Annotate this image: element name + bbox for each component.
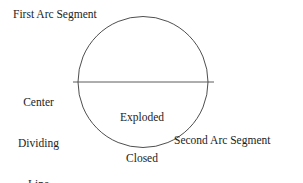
label-second-arc-segment: Second Arc Segment	[174, 134, 270, 148]
diagram-canvas: First Arc Segment Center Dividing Line (…	[0, 0, 303, 183]
label-exploded-closed-donut: Exploded Closed Donut	[98, 84, 186, 183]
label-donut-line-1: Exploded	[98, 111, 186, 125]
label-first-arc-segment: First Arc Segment	[13, 8, 97, 22]
label-center-dividing-line-1: Center	[3, 96, 74, 110]
label-donut-line-2: Closed	[98, 152, 186, 166]
label-center-dividing-line: Center Dividing Line (Used for Illustrat…	[3, 69, 74, 183]
label-center-dividing-line-2: Dividing	[3, 137, 74, 151]
label-center-dividing-line-3: Line	[3, 178, 74, 183]
